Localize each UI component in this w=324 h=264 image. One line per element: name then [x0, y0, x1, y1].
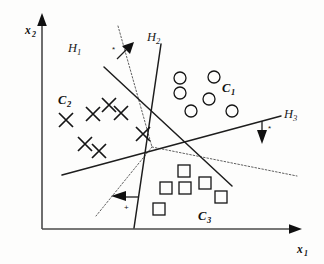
cluster-c2-group: C 2 — [58, 93, 150, 158]
hyperplane-h2-sign: + — [124, 203, 129, 212]
data-point-square — [199, 177, 211, 189]
y-axis-label-group: x 2 — [24, 24, 36, 39]
y-axis-label: x — [24, 24, 31, 36]
cluster-c2-label: C — [58, 93, 67, 107]
diagram-canvas: * H 1 + H 2 * H 3 — [0, 0, 324, 264]
y-axis-arrowhead — [37, 13, 47, 26]
hyperplane-h1-line[interactable] — [104, 67, 232, 186]
data-point-cross — [78, 137, 92, 151]
cluster-c2-points — [59, 98, 150, 158]
data-point-square — [153, 203, 165, 215]
cluster-c1-group: C 1 — [174, 71, 238, 117]
data-point-cross — [92, 144, 106, 158]
diagram-figure: * H 1 + H 2 * H 3 — [0, 0, 324, 264]
hyperplane-h2-line[interactable] — [134, 44, 161, 228]
hyperplane-h3-normal-arrowhead — [257, 130, 267, 144]
x-axis-label-group: x 1 — [296, 243, 308, 258]
cluster-c1-label: C — [222, 81, 231, 95]
data-point-cross — [86, 107, 100, 121]
data-point-cross — [59, 113, 73, 127]
x-axis-arrowhead — [289, 224, 302, 234]
cluster-c3-group: C 3 — [153, 165, 227, 225]
data-point-square — [178, 165, 190, 177]
data-point-circle — [185, 105, 197, 117]
cluster-c1-label-subscript: 1 — [231, 87, 235, 97]
data-point-cross — [102, 98, 116, 112]
axis-labels-group: x 2 x 1 — [24, 24, 308, 258]
x-axis-label-subscript: 1 — [304, 249, 308, 258]
cluster-c3-points — [153, 165, 227, 215]
data-point-square — [215, 191, 227, 203]
data-point-circle — [174, 72, 186, 84]
hyperplane-h3-label-subscript: 3 — [292, 113, 297, 123]
boundary-upper-left-ray — [118, 26, 152, 147]
hyperplane-h3-sign: * — [268, 124, 271, 133]
data-point-cross — [114, 106, 128, 120]
hyperplane-h2-normal-arrowhead — [111, 191, 126, 201]
y-axis-label-subscript: 2 — [31, 30, 36, 39]
data-point-circle — [174, 87, 186, 99]
cluster-c3-label-subscript: 3 — [206, 215, 212, 225]
data-point-circle — [203, 93, 215, 105]
data-point-square — [179, 182, 191, 194]
boundary-right-ray — [152, 147, 297, 176]
data-point-square — [160, 182, 172, 194]
decision-boundaries-group — [96, 26, 297, 216]
hyperplane-h1-label-subscript: 1 — [77, 47, 81, 57]
cluster-c2-label-subscript: 2 — [66, 99, 72, 109]
data-point-circle — [226, 105, 238, 117]
cluster-c3-label: C — [198, 209, 207, 223]
hyperplane-h1-normal-stem — [117, 50, 126, 59]
hyperplane-h1-sign: * — [112, 45, 115, 54]
x-axis-label: x — [296, 243, 303, 255]
data-point-circle — [208, 71, 220, 83]
hyperplane-h2-group[interactable]: + H 2 — [111, 30, 161, 228]
